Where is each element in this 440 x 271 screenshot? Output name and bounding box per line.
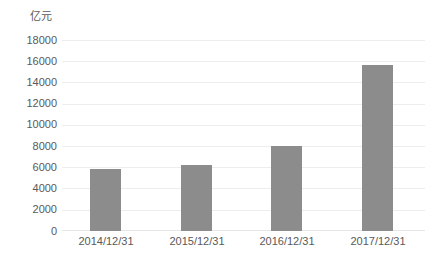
y-axis-tick-label: 6000: [1, 162, 57, 173]
y-axis-tick-label: 0: [1, 226, 57, 237]
y-axis-tick-label: 12000: [1, 98, 57, 109]
x-axis-tick-labels: 2014/12/31 2015/12/31 2016/12/31 2017/12…: [62, 235, 425, 255]
y-axis-tick-label: 18000: [1, 35, 57, 46]
y-axis-tick-label: 4000: [1, 183, 57, 194]
gridline: [62, 61, 425, 62]
y-axis-tick-label: 8000: [1, 141, 57, 152]
bar-chart: 亿元 18000 16000 14000 12000 10000 8000 60…: [0, 0, 440, 271]
bar: [271, 146, 302, 232]
x-axis-tick-label: 2016/12/31: [259, 235, 314, 248]
bar: [181, 165, 212, 231]
y-axis-tick-label: 2000: [1, 204, 57, 215]
bar: [90, 169, 121, 231]
x-axis-tick-label: 2017/12/31: [350, 235, 405, 248]
bar: [362, 65, 393, 231]
y-axis-tick-labels: 18000 16000 14000 12000 10000 8000 6000 …: [0, 40, 57, 231]
y-axis-unit-label: 亿元: [30, 10, 52, 22]
gridline: [62, 40, 425, 41]
x-axis-tick-label: 2015/12/31: [169, 235, 224, 248]
y-axis-tick-label: 16000: [1, 56, 57, 67]
plot-area: [62, 40, 425, 231]
y-axis-tick-label: 10000: [1, 119, 57, 130]
x-axis-tick-label: 2014/12/31: [78, 235, 133, 248]
y-axis-tick-label: 14000: [1, 77, 57, 88]
